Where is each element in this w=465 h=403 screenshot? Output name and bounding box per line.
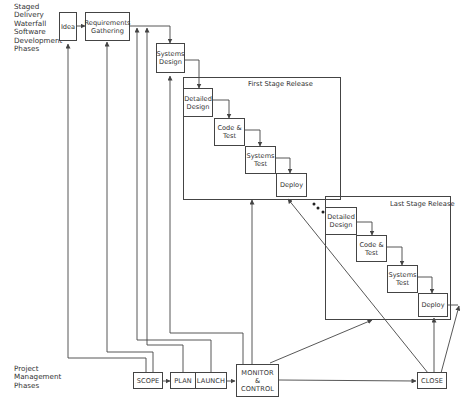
last-systems-test-box: Systems Test: [387, 265, 418, 293]
box-text: MONITOR: [241, 369, 274, 377]
box-text: Test: [217, 132, 241, 140]
systems-design-box: Systems Design: [156, 43, 185, 73]
first-detailed-design-box: Detailed Design: [183, 88, 213, 117]
box-text: &: [241, 377, 274, 385]
scope-box: SCOPE: [133, 372, 163, 389]
launch-box: LAUNCH: [195, 372, 227, 389]
box-text: Detailed: [327, 213, 355, 221]
first-stage-title: First Stage Release: [248, 80, 313, 88]
first-code-test-box: Code & Test: [214, 118, 245, 146]
box-text: PLAN: [174, 377, 192, 385]
box-text: Design: [156, 58, 184, 66]
box-text: Test: [246, 160, 274, 168]
box-text: Design: [184, 103, 212, 111]
box-text: Test: [388, 279, 416, 287]
box-text: LAUNCH: [197, 377, 225, 385]
box-text: Systems: [246, 152, 274, 160]
plan-box: PLAN: [170, 372, 196, 389]
last-stage-title: Last Stage Release: [390, 200, 455, 208]
box-text: SCOPE: [137, 377, 160, 385]
box-text: Code &: [217, 124, 241, 132]
box-text: CLOSE: [421, 377, 443, 385]
box-text: Gathering: [85, 27, 131, 35]
waterfall-phases-label: Staged Delivery Waterfall Software Devel…: [14, 3, 62, 53]
first-deploy-box: Deploy: [276, 173, 307, 197]
box-text: Deploy: [421, 301, 444, 309]
last-deploy-box: Deploy: [418, 293, 448, 317]
box-text: Requirements: [85, 19, 131, 27]
box-text: Systems: [388, 271, 416, 279]
last-code-test-box: Code & Test: [356, 235, 387, 262]
box-text: Deploy: [280, 181, 303, 189]
requirements-gathering-box: Requirements Gathering: [85, 12, 130, 41]
idea-box: Idea: [59, 12, 77, 41]
label-line: Phases: [14, 45, 62, 53]
last-detailed-design-box: Detailed Design: [325, 207, 357, 235]
label-line: Phases: [14, 382, 61, 390]
monitor-control-box: MONITOR & CONTROL: [236, 364, 279, 397]
ellipsis-dots: [313, 203, 325, 214]
box-text: Design: [327, 221, 355, 229]
box-text: CONTROL: [241, 385, 274, 393]
first-systems-test-box: Systems Test: [245, 146, 276, 174]
box-text: Test: [359, 249, 383, 257]
box-text: Systems: [156, 50, 184, 58]
box-text: Code &: [359, 241, 383, 249]
pm-phases-label: Project Management Phases: [14, 365, 61, 390]
box-text: Detailed: [184, 95, 212, 103]
close-box: CLOSE: [417, 372, 447, 389]
idea-label: Idea: [61, 23, 75, 31]
